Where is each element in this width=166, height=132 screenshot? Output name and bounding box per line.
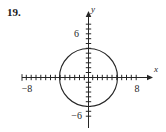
y-axis-label: y	[90, 4, 95, 14]
x-axis-label: x	[153, 64, 158, 74]
y-tick-label-minus6: −6	[71, 110, 82, 121]
x-tick-label-8: 8	[135, 83, 140, 94]
coordinate-plane-graph: x y −8 8 6 −6	[0, 0, 166, 132]
x-axis-arrow-icon	[147, 75, 153, 81]
figure-container: 19.	[0, 0, 166, 132]
y-tick-label-6: 6	[74, 28, 79, 39]
x-tick-label-minus8: −8	[22, 83, 33, 94]
